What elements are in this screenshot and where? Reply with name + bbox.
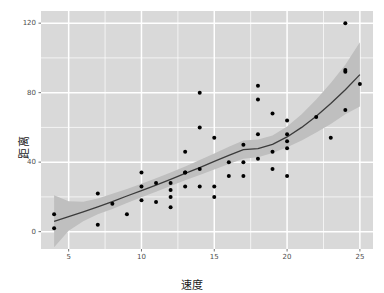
y-tick-label: 0: [11, 228, 36, 236]
x-tick-label: 20: [275, 253, 299, 261]
y-tick-label: 80: [11, 89, 36, 97]
x-tick-label: 5: [57, 253, 81, 261]
scatter-plot-canvas: [0, 0, 384, 293]
x-tick-label: 25: [348, 253, 372, 261]
x-axis-title: 速度: [0, 276, 384, 292]
chart-container: 51015202504080120 距离 速度: [0, 0, 384, 293]
x-tick-label: 15: [202, 253, 226, 261]
y-tick-label: 120: [11, 19, 36, 27]
x-tick-label: 10: [129, 253, 153, 261]
y-axis-title: 距离: [15, 117, 31, 177]
